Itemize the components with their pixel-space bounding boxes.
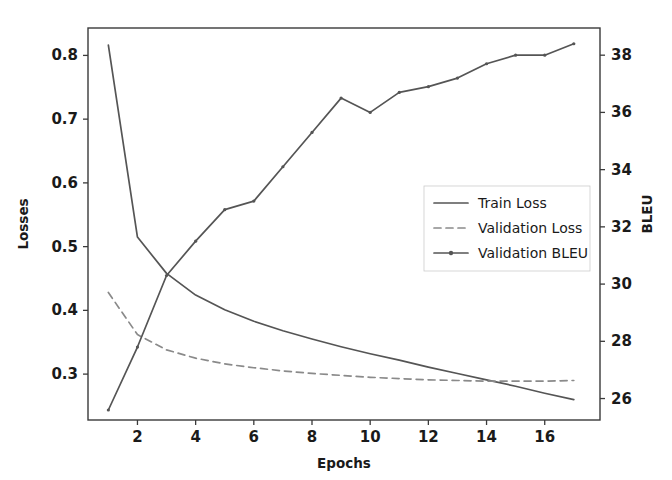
chart-legend: Train LossValidation LossValidation BLEU [424, 186, 590, 271]
data-point-marker [572, 42, 575, 45]
x-tick-label: 10 [360, 428, 381, 446]
y-tick-label-right: 38 [611, 46, 632, 64]
y-tick-label-right: 34 [611, 161, 632, 179]
x-tick-label: 8 [307, 428, 317, 446]
x-tick-label: 14 [476, 428, 497, 446]
x-tick-label: 4 [190, 428, 200, 446]
data-point-marker [310, 131, 313, 134]
legend-marker [449, 251, 453, 255]
data-point-marker [194, 240, 197, 243]
legend-label: Train Loss [477, 195, 547, 211]
y-tick-label-left: 0.3 [51, 365, 78, 383]
data-point-marker [543, 54, 546, 57]
data-point-marker [456, 76, 459, 79]
data-point-marker [136, 345, 139, 348]
y-tick-label-right: 36 [611, 103, 632, 121]
x-tick-label: 16 [534, 428, 555, 446]
data-point-marker [427, 85, 430, 88]
chart-figure: 246810121416 0.30.40.50.60.70.8 26283032… [0, 0, 672, 480]
data-point-marker [514, 54, 517, 57]
y-tick-label-left: 0.4 [51, 301, 78, 319]
x-axis-title: Epochs [317, 455, 371, 471]
data-point-marker [398, 91, 401, 94]
data-point-marker [485, 62, 488, 65]
y-tick-label-right: 28 [611, 332, 632, 350]
legend-label: Validation BLEU [478, 245, 588, 261]
legend-label: Validation Loss [478, 220, 582, 236]
y-tick-label-right: 26 [611, 390, 632, 408]
y-tick-label-left: 0.6 [51, 174, 78, 192]
data-point-marker [107, 408, 110, 411]
y-tick-label-right: 30 [611, 275, 632, 293]
y-tick-label-left: 0.5 [51, 238, 78, 256]
data-point-marker [281, 165, 284, 168]
y-tick-label-left: 0.7 [51, 110, 78, 128]
x-tick-label: 6 [249, 428, 259, 446]
y-tick-label-left: 0.8 [51, 46, 78, 64]
x-tick-label: 2 [132, 428, 142, 446]
y-axis-left-title: Losses [15, 198, 31, 249]
data-point-marker [339, 97, 342, 100]
y-axis-right-title: BLEU [639, 194, 655, 233]
y-tick-label-right: 32 [611, 218, 632, 236]
data-point-marker [252, 200, 255, 203]
x-tick-label: 12 [418, 428, 439, 446]
data-point-marker [165, 274, 168, 277]
data-point-marker [369, 111, 372, 114]
data-point-marker [223, 208, 226, 211]
line-chart: 246810121416 0.30.40.50.60.70.8 26283032… [0, 0, 672, 480]
